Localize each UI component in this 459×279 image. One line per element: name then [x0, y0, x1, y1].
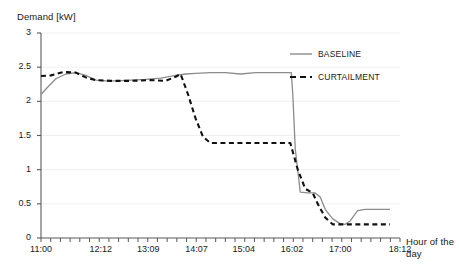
- y-tick-label: 0: [3, 232, 31, 242]
- x-tick-label: 13:09: [128, 244, 168, 254]
- demand-curtailment-chart: Demand [kW] Hour of the day 00.511.522.5…: [0, 0, 459, 279]
- x-tick-label: 16:02: [272, 244, 312, 254]
- x-tick-label: 14:07: [176, 244, 216, 254]
- plot-area: [0, 0, 459, 279]
- x-tick-label: 12:12: [81, 244, 121, 254]
- y-tick-label: 1.5: [3, 130, 31, 140]
- y-tick-label: 1: [3, 164, 31, 174]
- legend-label-baseline: BASELINE: [318, 49, 361, 59]
- x-tick-label: 17:00: [320, 244, 360, 254]
- x-tick-label: 11:00: [21, 244, 61, 254]
- legend-label-curtailment: CURTAILMENT: [318, 72, 380, 82]
- x-tick-label: 18:12: [380, 244, 420, 254]
- series-line-baseline: [41, 73, 390, 225]
- y-tick-label: 2: [3, 95, 31, 105]
- y-tick-label: 2.5: [3, 61, 31, 71]
- series-line-curtailment: [41, 72, 390, 224]
- y-tick-label: 3: [3, 27, 31, 37]
- x-tick-label: 15:04: [224, 244, 264, 254]
- y-tick-label: 0.5: [3, 198, 31, 208]
